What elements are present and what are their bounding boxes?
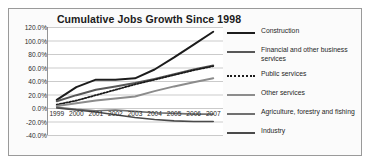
legend-label: Other services (261, 89, 305, 98)
x-tick-label: 2007 (206, 110, 221, 117)
legend-label: Agriculture, forestry and fishing (261, 108, 355, 117)
x-tick-label: 2005 (167, 110, 182, 117)
x-tick-label: 2003 (128, 110, 143, 117)
x-tick-label: 2004 (147, 110, 162, 117)
legend-item[interactable]: Construction (227, 27, 359, 39)
legend-swatch-line-icon (227, 28, 255, 38)
legend-item[interactable]: Other services (227, 89, 359, 101)
chart-container: Cumulative Jobs Growth Since 1998 120.0%… (8, 8, 362, 156)
legend-swatch-line-icon (227, 109, 255, 119)
legend-swatch-line-icon (227, 71, 255, 81)
legend-label: Financial and other business services (261, 46, 359, 63)
x-tick-label: 2006 (186, 110, 201, 117)
legend-label: Industry (261, 127, 285, 136)
legend-item[interactable]: Public services (227, 70, 359, 82)
legend-item[interactable]: Agriculture, forestry and fishing (227, 108, 359, 120)
legend-item[interactable]: Financial and other business services (227, 46, 359, 63)
legend-label: Construction (261, 27, 299, 36)
x-tick-label: 2001 (89, 110, 104, 117)
x-tick-label: 2000 (69, 110, 84, 117)
x-tick-label: 2002 (108, 110, 123, 117)
legend-label: Public services (261, 70, 306, 79)
legend-item[interactable]: Industry (227, 127, 359, 139)
x-tick-label: 1999 (49, 110, 64, 117)
legend-swatch-line-icon (227, 128, 255, 138)
legend-swatch-line-icon (227, 47, 255, 57)
legend-swatch-line-icon (227, 90, 255, 100)
chart-legend: ConstructionFinancial and other business… (227, 27, 359, 146)
